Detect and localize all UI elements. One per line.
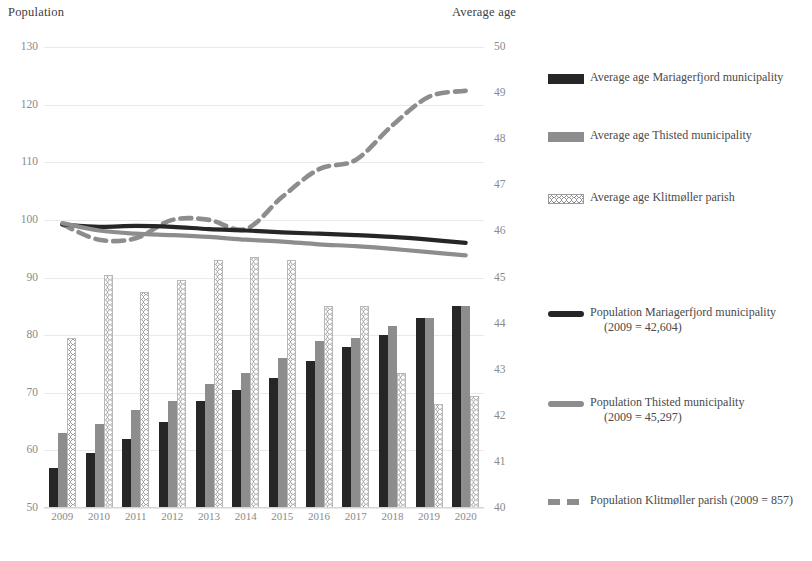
x-axis-tick: 2019 [411, 511, 448, 531]
right-axis-tick: 42 [494, 410, 526, 422]
left-axis-tick: 100 [0, 214, 38, 226]
right-axis-title: Average age [452, 5, 516, 20]
left-axis-tick: 110 [0, 157, 38, 169]
legend-item[interactable]: Average age Klitmøller parish [548, 190, 812, 205]
right-axis-tick: 48 [494, 133, 526, 145]
x-axis-tick: 2012 [154, 511, 191, 531]
legend-label: Population Klitmøller parish (2009 = 857… [590, 493, 793, 508]
legend-swatch-icon [548, 311, 584, 317]
right-axis-tick: 40 [494, 502, 526, 514]
legend-swatch-icon [548, 401, 584, 407]
left-axis-tick-labels: 1301201101009080706050 [0, 47, 38, 508]
left-axis-tick: 80 [0, 329, 38, 341]
right-axis-tick-labels: 5049484746454443424140 [486, 47, 526, 508]
x-axis-tick: 2017 [337, 511, 374, 531]
legend-label-line2: (2009 = 42,604) [590, 320, 776, 335]
x-axis-tick: 2016 [301, 511, 338, 531]
x-axis-tick: 2013 [191, 511, 228, 531]
left-axis-tick: 130 [0, 41, 38, 53]
x-axis-tick: 2014 [227, 511, 264, 531]
left-axis-title: Population [8, 5, 64, 20]
legend-item[interactable]: Average age Mariagerfjord municipality [548, 70, 812, 85]
right-axis-tick: 44 [494, 318, 526, 330]
left-axis-tick: 90 [0, 272, 38, 284]
legend-swatch-icon [548, 499, 584, 505]
right-axis-tick: 49 [494, 87, 526, 99]
x-axis-tick: 2018 [374, 511, 411, 531]
legend-swatch-icon [548, 194, 584, 204]
right-axis-tick: 45 [494, 272, 526, 284]
left-axis-tick: 120 [0, 99, 38, 111]
plot-area [44, 47, 484, 508]
legend-swatch-icon [548, 74, 584, 84]
left-axis-tick: 60 [0, 445, 38, 457]
legend-label: Average age Mariagerfjord municipality [590, 70, 783, 85]
x-axis-line [44, 507, 484, 508]
gridline [44, 508, 484, 509]
legend-item[interactable]: Population Thisted municipality(2009 = 4… [548, 395, 812, 425]
legend-item[interactable]: Average age Thisted municipality [548, 128, 812, 143]
x-axis-tick: 2011 [117, 511, 154, 531]
left-axis-tick: 70 [0, 387, 38, 399]
legend-label: Average age Thisted municipality [590, 128, 752, 143]
legend-swatch-icon [548, 132, 584, 142]
legend-item[interactable]: Population Mariagerfjord municipality(20… [548, 305, 812, 335]
x-axis-tick: 2010 [81, 511, 118, 531]
right-axis-tick: 43 [494, 364, 526, 376]
legend-label-line2: (2009 = 45,297) [590, 410, 744, 425]
x-axis-tick: 2015 [264, 511, 301, 531]
line-series [62, 91, 465, 241]
x-axis-tick: 2020 [447, 511, 484, 531]
legend-label: Average age Klitmøller parish [590, 190, 735, 205]
x-axis-tick-labels: 2009201020112012201320142015201620172018… [44, 511, 484, 531]
line-series-container [44, 47, 484, 508]
legend-label: Population Mariagerfjord municipality(20… [590, 305, 776, 335]
right-axis-tick: 47 [494, 180, 526, 192]
right-axis-tick: 41 [494, 456, 526, 468]
left-axis-tick: 50 [0, 502, 38, 514]
legend-item[interactable]: Population Klitmøller parish (2009 = 857… [548, 493, 812, 508]
right-axis-tick: 46 [494, 226, 526, 238]
right-axis-tick: 50 [494, 41, 526, 53]
legend-label: Population Thisted municipality(2009 = 4… [590, 395, 744, 425]
x-axis-tick: 2009 [44, 511, 81, 531]
